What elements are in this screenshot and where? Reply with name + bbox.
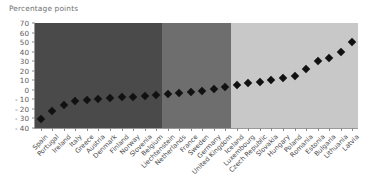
y-axis-tick-mark	[32, 99, 35, 100]
y-axis-tick-mark	[32, 23, 35, 24]
y-axis-tick-mark	[32, 61, 35, 62]
y-axis-tick-label: 60	[20, 28, 29, 37]
x-axis-tick-mark	[98, 128, 99, 131]
y-axis-tick-label: - 10	[15, 95, 29, 104]
y-axis-tick-label: 10	[20, 76, 29, 85]
x-axis-tick-mark	[352, 128, 353, 131]
x-axis-tick-mark	[145, 128, 146, 131]
x-axis-labels: SpainPortugalIrelandItalyGreeceAustriaDe…	[0, 128, 367, 184]
y-axis-tick-label: 40	[20, 47, 29, 56]
x-axis-tick-mark	[64, 128, 65, 131]
y-axis-tick-mark	[32, 80, 35, 81]
x-axis-tick-mark	[110, 128, 111, 131]
x-axis-tick-mark	[248, 128, 249, 131]
x-axis-tick-mark	[168, 128, 169, 131]
y-axis-tick-label: 30	[20, 57, 29, 66]
x-axis-tick-mark	[237, 128, 238, 131]
y-axis-tick-mark	[32, 32, 35, 33]
x-axis-tick-mark	[52, 128, 53, 131]
y-axis-tick-mark	[32, 70, 35, 71]
x-axis-tick-mark	[260, 128, 261, 131]
chart-root: Percentage points 706050403020100- 10- 2…	[0, 0, 367, 184]
y-axis-tick-mark	[32, 108, 35, 109]
x-axis-tick-mark	[156, 128, 157, 131]
x-axis-tick-mark	[283, 128, 284, 131]
y-axis-tick-label: - 20	[15, 104, 29, 113]
x-axis-tick-mark	[225, 128, 226, 131]
x-axis-tick-mark	[133, 128, 134, 131]
y-axis-tick-mark	[32, 51, 35, 52]
x-axis-tick-mark	[191, 128, 192, 131]
x-axis-tick-mark	[122, 128, 123, 131]
x-axis-tick-mark	[75, 128, 76, 131]
x-axis-tick-mark	[295, 128, 296, 131]
y-axis: 706050403020100- 10- 20- 30- 40	[0, 23, 35, 128]
x-axis-tick-mark	[318, 128, 319, 131]
x-axis-tick-mark	[41, 128, 42, 131]
band-medium	[162, 23, 231, 128]
x-axis-tick-mark	[202, 128, 203, 131]
x-axis-tick-mark	[87, 128, 88, 131]
x-axis-tick-mark	[306, 128, 307, 131]
y-axis-tick-mark	[32, 89, 35, 90]
x-axis-tick-mark	[329, 128, 330, 131]
y-axis-tick-label: 20	[20, 66, 29, 75]
y-axis-tick-mark	[32, 42, 35, 43]
x-axis-tick-mark	[214, 128, 215, 131]
page-title: Percentage points	[9, 4, 78, 13]
x-axis-tick-mark	[341, 128, 342, 131]
x-axis-tick-mark	[271, 128, 272, 131]
y-axis-tick-label: 0	[24, 85, 29, 94]
y-axis-tick-mark	[32, 118, 35, 119]
plot-area	[35, 23, 358, 128]
y-axis-tick-label: 50	[20, 38, 29, 47]
y-axis-tick-label: - 30	[15, 114, 29, 123]
y-axis-tick-label: 70	[20, 19, 29, 28]
x-axis-tick-mark	[179, 128, 180, 131]
